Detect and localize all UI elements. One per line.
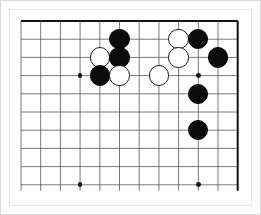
stone-white-2[interactable]: [109, 65, 129, 85]
go-board-app: [0, 0, 261, 215]
stone-black-5[interactable]: [208, 47, 228, 67]
hoshi-bottom-right-point: [196, 182, 201, 187]
stone-white-3[interactable]: [149, 65, 169, 85]
hoshi-right-point: [196, 73, 201, 78]
stone-black-3[interactable]: [90, 65, 110, 85]
go-board-surface[interactable]: [9, 9, 252, 206]
board-grid: [10, 10, 253, 207]
stone-white-5[interactable]: [168, 47, 188, 67]
